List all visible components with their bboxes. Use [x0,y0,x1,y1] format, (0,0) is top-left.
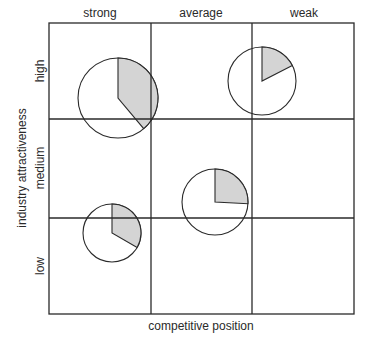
bubble-average-medium [182,169,248,235]
row-label-high: high [33,60,47,83]
column-label-average: average [179,6,223,20]
row-label-low: low [33,257,47,275]
bubble-strong-low [83,204,141,262]
column-label-strong: strong [83,6,116,20]
bubble-layer [78,47,296,262]
bubble-share-slice [215,169,248,204]
bubble-strong-high [78,58,158,138]
row-label-medium: medium [33,147,47,190]
y-axis-title: industry attractiveness [15,108,29,227]
x-axis-title: competitive position [148,319,253,333]
column-label-weak: weak [289,6,319,20]
portfolio-matrix: strong average weak high medium low indu… [0,0,367,343]
bubble-weak-high [228,47,296,115]
